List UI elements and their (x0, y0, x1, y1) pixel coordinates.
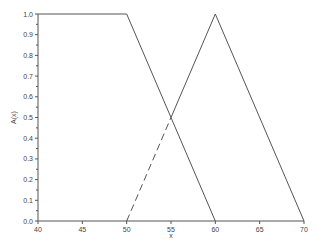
y-tick-label: 0.5 (23, 114, 33, 121)
plot-svg: 0.00.10.20.30.40.50.60.70.80.91.04045505… (0, 0, 324, 251)
y-tick-label: 0.7 (23, 73, 33, 80)
membership-function-chart: 0.00.10.20.30.40.50.60.70.80.91.04045505… (0, 0, 324, 251)
x-tick-label: 70 (300, 226, 308, 233)
x-tick-label: 45 (78, 226, 86, 233)
series-triangle-lower-left-line (127, 118, 171, 222)
y-tick-label: 0.3 (23, 155, 33, 162)
series-triangle-upper-line (171, 14, 304, 221)
y-tick-label: 0.9 (23, 31, 33, 38)
x-tick-label: 65 (256, 226, 264, 233)
y-axis-label: A(x) (10, 111, 18, 124)
x-tick-label: 60 (211, 226, 219, 233)
y-tick-label: 0.2 (23, 176, 33, 183)
y-tick-label: 0.1 (23, 197, 33, 204)
x-tick-label: 40 (34, 226, 42, 233)
y-tick-label: 0.4 (23, 135, 33, 142)
y-tick-label: 0.0 (23, 218, 33, 225)
y-tick-label: 1.0 (23, 11, 33, 18)
y-tick-label: 0.6 (23, 93, 33, 100)
x-tick-label: 50 (123, 226, 131, 233)
series-trapezoid-line (38, 14, 215, 221)
x-axis-label: x (169, 232, 173, 239)
y-tick-label: 0.8 (23, 52, 33, 59)
